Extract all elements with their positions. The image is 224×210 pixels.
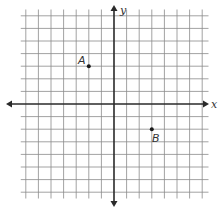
y-axis-down-arrow-icon [111, 201, 118, 207]
point-a [87, 64, 91, 68]
point-b [150, 127, 154, 131]
coordinate-plane: x y A B [0, 0, 224, 210]
points: A B [77, 54, 160, 145]
point-b-label: B [152, 132, 160, 145]
y-axis-label: y [119, 4, 127, 17]
x-axis-right-arrow-icon [203, 101, 209, 108]
axes: x y [6, 4, 218, 207]
point-a-label: A [77, 54, 86, 67]
y-axis-up-arrow-icon [111, 5, 118, 11]
x-axis-label: x [211, 98, 218, 111]
x-axis-left-arrow-icon [6, 101, 12, 108]
